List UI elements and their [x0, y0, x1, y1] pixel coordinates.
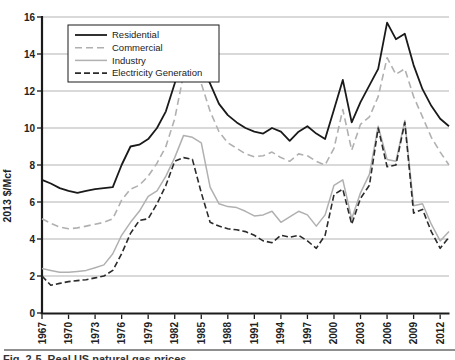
y-tick-label-8: 8: [29, 160, 35, 171]
legend-label-electricity-generation: Electricity Generation: [112, 67, 202, 78]
chart-svg: 0246810121416196719701973197619791982198…: [0, 0, 455, 348]
x-tick-label-2009: 2009: [408, 322, 419, 345]
x-tick-label-1979: 1979: [143, 322, 154, 345]
series-line-industry: [42, 121, 449, 273]
x-tick-label-1982: 1982: [169, 322, 180, 345]
y-tick-label-10: 10: [24, 123, 36, 134]
y-tick-label-2: 2: [29, 271, 35, 282]
x-tick-label-2000: 2000: [328, 322, 339, 345]
x-tick-label-1976: 1976: [116, 322, 127, 345]
caption-divider: [4, 349, 455, 351]
legend-label-commercial: Commercial: [112, 42, 163, 53]
y-axis-title: 2013 $/Mcf: [1, 169, 13, 223]
x-tick-label-1991: 1991: [249, 322, 260, 345]
price-chart: 0246810121416196719701973197619791982198…: [0, 0, 455, 348]
x-tick-label-2003: 2003: [355, 322, 366, 345]
y-tick-label-12: 12: [24, 86, 36, 97]
figure-caption: Fig. 2-5. Real US natural gas prices: [3, 353, 453, 360]
figure: 0246810121416196719701973197619791982198…: [0, 0, 455, 360]
y-tick-label-6: 6: [29, 197, 35, 208]
legend-label-industry: Industry: [112, 55, 146, 66]
x-tick-label-1970: 1970: [63, 322, 74, 345]
x-tick-label-1973: 1973: [90, 322, 101, 345]
y-tick-label-14: 14: [24, 49, 36, 60]
series-line-commercial: [42, 58, 449, 229]
y-tick-label-16: 16: [24, 12, 36, 23]
y-tick-label-4: 4: [29, 234, 35, 245]
legend-label-residential: Residential: [112, 29, 159, 40]
x-tick-label-1967: 1967: [37, 322, 48, 345]
x-tick-label-2012: 2012: [435, 322, 446, 345]
x-tick-label-1985: 1985: [196, 322, 207, 345]
x-tick-label-2006: 2006: [382, 322, 393, 345]
x-tick-label-1988: 1988: [222, 322, 233, 345]
y-tick-label-0: 0: [29, 308, 35, 319]
x-tick-label-1994: 1994: [275, 322, 286, 345]
x-tick-label-1997: 1997: [302, 322, 313, 345]
series-line-electricity-generation: [42, 122, 449, 285]
